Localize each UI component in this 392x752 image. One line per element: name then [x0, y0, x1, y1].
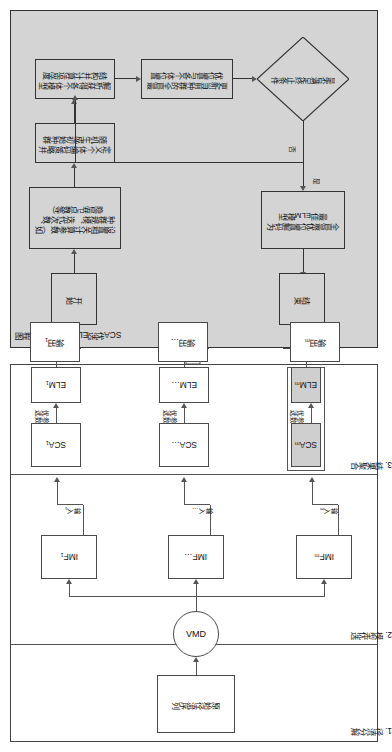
node-termination-check: 是否满足终止条件: [257, 37, 349, 121]
edge-label-no: 否: [289, 144, 296, 151]
edge-params-init: [74, 167, 75, 187]
sca-flowchart-panel: SCA优选ELM模型参数流程图 开始 设置相关计算参数（如种群规模、迭代次数、隐…: [10, 10, 378, 348]
node-termination-label: 是否满足终止条件: [271, 74, 335, 83]
edge-update-check: [233, 78, 253, 79]
arrowhead-params: [71, 249, 77, 254]
node-end: 结束: [279, 273, 325, 325]
edge-no-branch-v: [75, 162, 303, 163]
node-start: 开始: [51, 273, 97, 325]
aggregation-group: 输出₁ 输出… 输出ₘ: [10, 364, 378, 742]
edge-yes-branch: [303, 163, 304, 187]
node-decode: 全局最优位置解码为最佳ELM模型: [261, 191, 345, 249]
edge-no-branch-return: [75, 99, 76, 163]
edge-start-params: [74, 253, 75, 273]
node-output-2: 输出…: [158, 322, 208, 362]
edge-no-branch-h: [303, 121, 304, 163]
arrowhead-no-return: [72, 95, 78, 100]
edge-label-yes: 是: [313, 176, 320, 183]
node-output-3: 输出ₘ: [290, 322, 340, 362]
node-fitness: 解析获得各个体模型结构并计算适应度: [35, 59, 115, 99]
node-update: 更新当前种群的全局最优位置与各个体位置: [141, 59, 233, 99]
edge-fitness-update: [115, 78, 137, 79]
arrowhead-init: [71, 163, 77, 168]
edge-decode-end: [303, 249, 304, 273]
node-set-params: 设置相关计算参数（如种群规模、迭代次数、隐层节点数等）: [29, 187, 121, 249]
node-output-1: 输出₁: [30, 322, 80, 362]
